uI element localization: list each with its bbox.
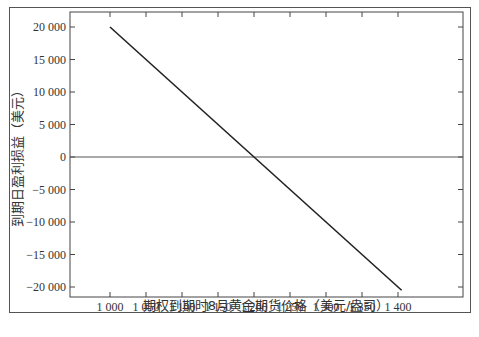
y-tick-label: 15 000: [33, 53, 66, 67]
x-tick-label: 1 000: [97, 300, 124, 314]
line-chart: 20 00015 00010 0005 0000−5 000−10 000−15…: [0, 0, 479, 337]
x-axis-title: 期权到期时8月黄金期货价格（美元/盎司）: [143, 298, 390, 313]
profit-line: [110, 27, 402, 290]
y-tick-label: 20 000: [33, 20, 66, 34]
y-axis-title: 到期日盈利损益（美元）: [10, 84, 25, 227]
y-tick-label: −20 000: [26, 280, 66, 294]
y-tick-label: −10 000: [26, 215, 66, 229]
y-tick-label: 5 000: [39, 118, 66, 132]
y-tick-label: −15 000: [26, 248, 66, 262]
y-tick-label: −5 000: [32, 183, 66, 197]
y-tick-label: 0: [60, 150, 66, 164]
plot-area: [70, 12, 463, 297]
y-tick-label: 10 000: [33, 85, 66, 99]
